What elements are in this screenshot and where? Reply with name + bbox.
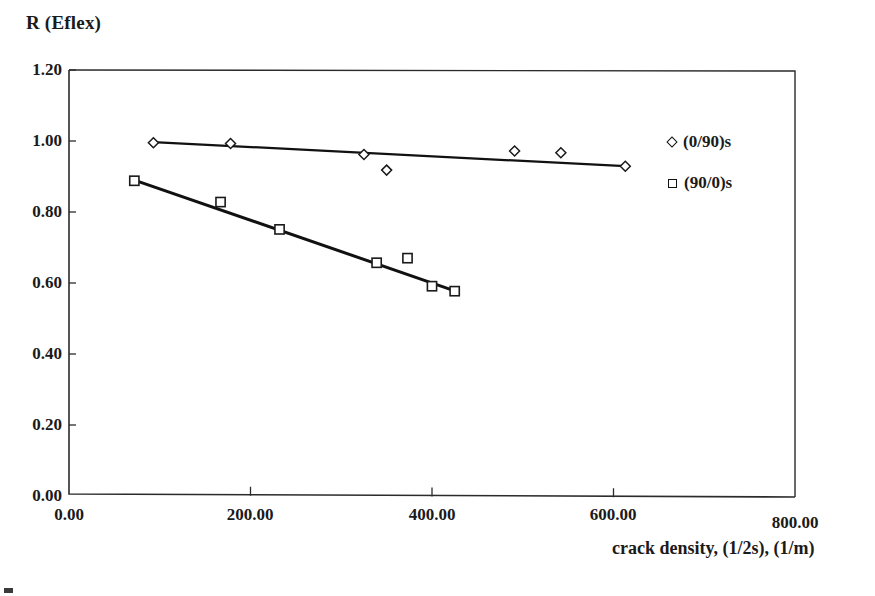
y-tick-label-0.80: 0.80: [4, 202, 62, 222]
diamond-marker-icon: [666, 136, 677, 147]
legend-label-0-90: (0/90)s: [683, 132, 731, 152]
y-axis-title: R (Eflex): [26, 12, 101, 34]
data-point-square: [275, 225, 284, 234]
x-axis-title: crack density, (1/2s), (1/m): [612, 538, 814, 559]
data-point-diamond: [556, 148, 566, 158]
x-tick-label-200: 200.00: [205, 505, 295, 525]
x-tick-label-600: 600.00: [568, 505, 658, 525]
legend-item-90-0[interactable]: (90/0)s: [668, 173, 732, 193]
data-point-diamond: [359, 149, 369, 159]
trend-line: [134, 180, 454, 291]
scan-artifact: [4, 588, 13, 593]
data-point-square: [450, 287, 459, 296]
y-tick-label-0.60: 0.60: [4, 273, 62, 293]
data-point-diamond: [620, 161, 630, 171]
data-point-diamond: [510, 146, 520, 156]
legend-item-0-90[interactable]: (0/90)s: [668, 132, 731, 152]
trend-line: [153, 142, 625, 166]
chart-figure: R (Eflex) crack density, (1/2s), (1/m) 1…: [0, 0, 875, 596]
data-point-square: [372, 258, 381, 267]
y-tick-label-0.00: 0.00: [4, 486, 62, 506]
data-point-square: [216, 197, 225, 206]
x-tick-label-400: 400.00: [387, 505, 477, 525]
series--90-0-s: [130, 176, 460, 296]
y-tick-label-1.20: 1.20: [4, 60, 62, 80]
y-tick-label-1.00: 1.00: [4, 131, 62, 151]
data-point-square: [403, 254, 412, 263]
x-tick-label-0: 0.00: [24, 505, 114, 525]
data-point-diamond: [148, 138, 158, 148]
y-tick-label-0.40: 0.40: [4, 344, 62, 364]
data-series: [130, 138, 631, 296]
square-marker-icon: [668, 179, 677, 188]
data-point-square: [130, 176, 139, 185]
series--0-90-s: [148, 138, 630, 175]
y-tick-label-0.20: 0.20: [4, 415, 62, 435]
data-point-diamond: [382, 165, 392, 175]
data-point-square: [427, 282, 436, 291]
legend-label-90-0: (90/0)s: [684, 173, 732, 193]
x-tick-label-800: 800.00: [750, 513, 840, 533]
